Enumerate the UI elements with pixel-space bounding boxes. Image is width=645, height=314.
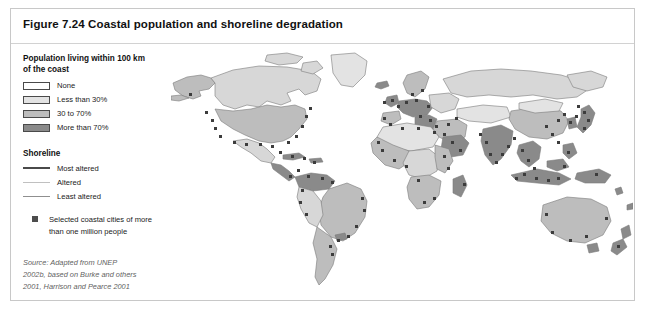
legend-item-most-altered[interactable]: Most altered [23,162,175,174]
city-marker-icon [32,216,38,222]
legend-item-more-than-70[interactable]: More than 70% [23,121,175,134]
region-tasmania [587,243,599,253]
region-canada-arctic [265,53,303,65]
legend-item-less-than-30[interactable]: Less than 30% [23,93,175,106]
region-peru-bolivia [297,187,323,227]
population-legend-heading-line2: of the coast [23,64,175,75]
region-iceland [375,81,389,89]
legend-label-most-altered: Most altered [57,164,99,173]
region-united-states [215,105,307,143]
population-legend-heading-line1: Population living within 100 km [23,53,175,64]
legend-label-less-than-30: Less than 30% [57,95,107,104]
swatch-30-to-70 [23,110,50,118]
line-sample-least-altered [23,196,50,197]
legend-item-none[interactable]: None [23,79,175,92]
line-sample-most-altered [23,167,50,169]
region-central-africa [403,149,439,179]
region-brazil [319,183,367,241]
region-fiji [627,203,633,210]
swatch-more-than-70 [23,124,50,132]
map-legend: Population living within 100 km of the c… [23,53,175,237]
swatch-less-than-30 [23,96,50,104]
legend-label-30-to-70: 30 to 70% [57,109,91,118]
title-divider [11,43,634,44]
source-note: Source: Adapted from UNEP 2002b, based o… [23,257,183,293]
region-central-america [271,163,295,181]
world-map[interactable] [171,49,633,299]
population-legend-heading: Population living within 100 km of the c… [23,53,175,75]
region-russia [443,69,589,99]
world-map-svg [171,49,633,299]
source-line-2: 2002b, based on Burke and others [23,269,183,281]
region-new-zealand [621,225,631,239]
figure-title: Figure 7.24 Coastal population and shore… [23,18,343,30]
region-indonesia [511,169,571,185]
legend-item-least-altered[interactable]: Least altered [23,190,175,202]
region-pacific-islands [615,187,623,195]
swatch-none [23,82,50,90]
legend-label-coastal-cities: Selected coastal cities of more than one… [49,214,152,237]
source-line-1: Source: Adapted from UNEP [23,257,183,269]
source-line-3: 2001, Harrison and Pearce 2001 [23,281,183,293]
region-central-asia [457,105,511,123]
region-greenland [331,53,367,87]
region-canada [211,66,321,109]
legend-label-none: None [57,81,75,90]
region-scandinavia [403,71,429,97]
legend-label-coastal-cities-line2: than one million people [49,227,127,236]
shoreline-legend-heading: Shoreline [23,148,175,159]
region-eastern-europe [429,93,459,113]
legend-item-30-to-70[interactable]: 30 to 70% [23,107,175,120]
legend-label-altered: Altered [57,178,81,187]
line-sample-altered [23,182,50,183]
legend-item-coastal-cities[interactable]: Selected coastal cities of more than one… [23,214,175,237]
region-australia [541,197,611,243]
legend-label-more-than-70: More than 70% [57,123,109,132]
region-baffin [301,61,323,74]
region-new-guinea [575,169,611,183]
region-mongolia [519,99,563,113]
region-southeast-asia [517,141,541,167]
legend-item-altered[interactable]: Altered [23,176,175,188]
legend-label-least-altered: Least altered [57,192,101,201]
figure-frame: Figure 7.24 Coastal population and shore… [10,8,635,301]
legend-label-coastal-cities-line1: Selected coastal cities of more [49,215,152,224]
